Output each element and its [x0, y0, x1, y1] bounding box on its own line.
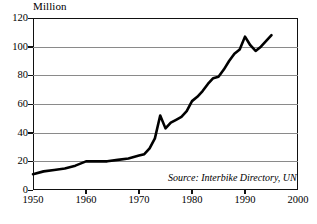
x-tick-label-1970: 1970	[129, 194, 150, 205]
x-tick-label-1960: 1960	[76, 194, 97, 205]
gridline-y-100	[33, 47, 298, 48]
y-tick-label-120: 120	[2, 13, 28, 24]
gridline-y-40	[33, 133, 298, 134]
gridline-y-60	[33, 104, 298, 105]
bicycle-production-chart: Million 020406080100120 1950196019701980…	[0, 0, 317, 224]
source-annotation: Source: Interbike Directory, UN	[168, 172, 297, 184]
x-tick-label-1980: 1980	[182, 194, 203, 205]
x-tick-label-1950: 1950	[23, 194, 44, 205]
y-tick-label-60: 60	[2, 99, 28, 110]
y-tick-label-40: 40	[2, 128, 28, 139]
x-tick-mark-1990	[244, 190, 245, 194]
x-tick-mark-1980	[191, 190, 192, 194]
y-tick-mark-0	[28, 190, 33, 191]
y-tick-label-100: 100	[2, 42, 28, 53]
x-tick-mark-1970	[138, 190, 139, 194]
y-tick-label-20: 20	[2, 156, 28, 167]
gridline-y-80	[33, 75, 298, 76]
y-axis-unit-label: Million	[33, 0, 67, 13]
x-tick-label-1990: 1990	[235, 194, 256, 205]
x-tick-mark-1960	[85, 190, 86, 194]
y-tick-mark-120	[28, 18, 33, 19]
x-tick-label-2000: 2000	[288, 194, 309, 205]
gridline-y-20	[33, 161, 298, 162]
y-tick-label-80: 80	[2, 70, 28, 81]
